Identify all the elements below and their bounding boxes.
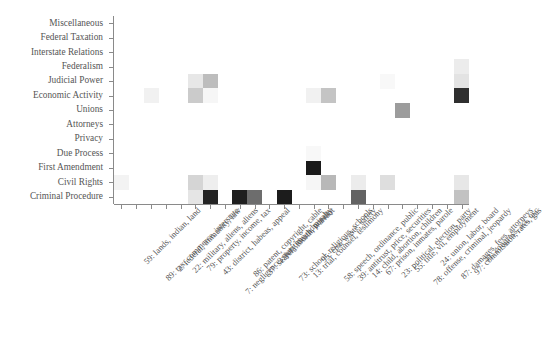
y-axis-label: Unions [0,103,107,117]
y-axis-tick [109,153,113,154]
heatmap-cell [188,190,203,205]
heatmap-cell [395,103,410,118]
y-axis-tick [109,38,113,39]
y-axis-label: Interstate Relations [0,45,107,59]
y-axis-label: Federal Taxation [0,30,107,44]
y-axis-tick [109,96,113,97]
heatmap-cell [114,175,129,190]
heatmap-cell [321,88,336,103]
y-axis-tick [109,139,113,140]
y-axis-label: Federalism [0,59,107,73]
y-axis-labels: MiscellaneousFederal TaxationInterstate … [0,16,107,204]
heatmap-cell [188,74,203,89]
y-axis-tick [109,81,113,82]
heatmap-cell [232,190,247,205]
heatmap-cell [188,88,203,103]
heatmap-cell [203,74,218,89]
heatmap-cell [247,190,262,205]
heatmap-cell [454,59,469,74]
heatmap-cell [306,146,321,161]
y-axis-tick [109,197,113,198]
heatmap-cell [203,175,218,190]
heatmap-grid [114,16,469,204]
y-axis-tick [109,52,113,53]
heatmap-cell [351,175,366,190]
y-axis-tick [109,182,113,183]
heatmap-cell [380,175,395,190]
x-axis-labels: 59: lands, indian, land89: tax, commerce… [114,209,469,351]
heatmap-cell [454,88,469,103]
heatmap-cell [188,175,203,190]
heatmap-cell [203,190,218,205]
y-axis-label: Civil Rights [0,175,107,189]
heatmap-cell [203,88,218,103]
y-axis-label: Due Process [0,146,107,160]
heatmap-cell [306,161,321,176]
y-axis-label: Judicial Power [0,74,107,88]
heatmap-cell [277,190,292,205]
heatmap-cell [144,88,159,103]
heatmap-cell [351,190,366,205]
heatmap-cell [306,88,321,103]
y-axis-label: Privacy [0,132,107,146]
y-axis-label: Criminal Procedure [0,190,107,204]
heatmap-cell [454,175,469,190]
heatmap-cell [454,74,469,89]
heatmap-cell [454,190,469,205]
y-axis-label: First Amendment [0,161,107,175]
y-axis-ticks [109,16,113,204]
y-axis-tick [109,67,113,68]
heatmap-cell [380,74,395,89]
y-axis-tick [109,23,113,24]
y-axis-label: Attorneys [0,117,107,131]
y-axis-tick [109,110,113,111]
heatmap-cell [306,175,321,190]
y-axis-tick [109,124,113,125]
y-axis-label: Miscellaneous [0,16,107,30]
heatmap-cell [321,175,336,190]
y-axis-tick [109,168,113,169]
y-axis-label: Economic Activity [0,88,107,102]
